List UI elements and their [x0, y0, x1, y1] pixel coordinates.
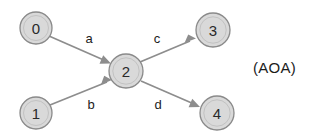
edge-b-label: b: [87, 97, 94, 112]
edge-d-line: [141, 81, 194, 104]
edge-b: b: [50, 76, 112, 112]
edge-a-line: [49, 36, 106, 61]
edge-c-label: c: [154, 31, 161, 46]
node-2[interactable]: 2: [109, 54, 143, 88]
node-1[interactable]: 1: [20, 97, 52, 129]
node-3-label: 3: [209, 22, 217, 39]
node-group: 0 1 2 3 4: [20, 12, 234, 130]
node-4-label: 4: [213, 105, 221, 122]
node-3[interactable]: 3: [196, 13, 230, 47]
diagram-canvas: a b c d: [0, 0, 327, 138]
edge-c: c: [140, 31, 196, 63]
edge-a: a: [49, 31, 111, 64]
aoa-network-diagram: a b c d: [0, 0, 327, 138]
aoa-annotation-label: (AOA): [253, 59, 296, 76]
edge-d: d: [141, 81, 200, 112]
node-4[interactable]: 4: [200, 96, 234, 130]
edge-c-line: [140, 41, 190, 62]
edge-d-label: d: [154, 97, 161, 112]
edge-b-line: [50, 82, 107, 105]
edge-c-arrowhead: [185, 35, 196, 43]
node-2-label: 2: [122, 63, 130, 80]
edge-a-label: a: [85, 31, 93, 46]
node-1-label: 1: [32, 105, 40, 122]
node-0-label: 0: [32, 20, 40, 37]
node-0[interactable]: 0: [20, 12, 52, 44]
